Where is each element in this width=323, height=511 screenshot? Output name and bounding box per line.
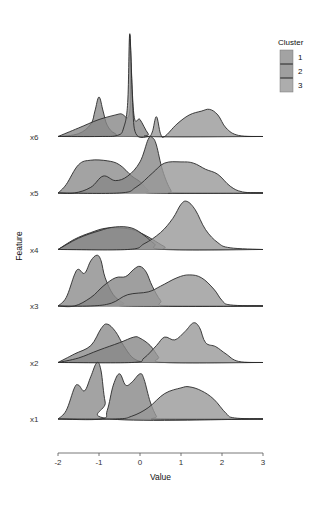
- row-label-x3: x3: [30, 302, 39, 311]
- density-line-x6-cluster-2: [58, 35, 263, 137]
- legend-key-2: [280, 64, 293, 78]
- legend-label-3: 3: [298, 81, 303, 90]
- x-axis: -2-10123 Value: [54, 453, 265, 482]
- x-axis-title: Value: [150, 472, 171, 482]
- y-axis-title: Feature: [14, 231, 24, 261]
- ridge-x1: [58, 362, 263, 420]
- ridge-x4: [58, 201, 263, 250]
- x-tick-label: 2: [220, 458, 225, 467]
- x-ticks: -2-10123: [54, 453, 265, 467]
- density-area-x6-cluster-2: [58, 35, 263, 137]
- x-tick-label: 1: [179, 458, 184, 467]
- ridge-x6: [58, 34, 263, 138]
- legend-key-1: [280, 50, 293, 64]
- ridgeline-chart: x6x5x4x3x2x1 -2-10123 Value Feature Clus…: [0, 0, 323, 511]
- legend-label-2: 2: [298, 67, 303, 76]
- x-tick-label: 0: [138, 458, 143, 467]
- row-label-x1: x1: [30, 415, 39, 424]
- legend-keys: 123: [280, 50, 303, 92]
- legend-title: Cluster: [278, 38, 304, 47]
- legend-label-1: 1: [298, 53, 303, 62]
- row-label-x2: x2: [30, 359, 39, 368]
- ridges: [58, 34, 263, 421]
- x-tick-label: -1: [95, 458, 103, 467]
- ridge-x2: [58, 323, 263, 363]
- row-label-x5: x5: [30, 189, 39, 198]
- legend: Cluster 123: [278, 38, 304, 92]
- row-label-x4: x4: [30, 246, 39, 255]
- ridge-x3: [58, 255, 263, 306]
- x-tick-label: -2: [54, 458, 62, 467]
- density-area-x6-cluster-3: [58, 34, 263, 138]
- legend-key-3: [280, 78, 293, 92]
- row-label-x6: x6: [30, 133, 39, 142]
- ridge-x5: [58, 136, 263, 193]
- x-tick-label: 3: [261, 458, 266, 467]
- row-labels: x6x5x4x3x2x1: [30, 133, 39, 425]
- density-line-x6-cluster-3: [58, 34, 263, 138]
